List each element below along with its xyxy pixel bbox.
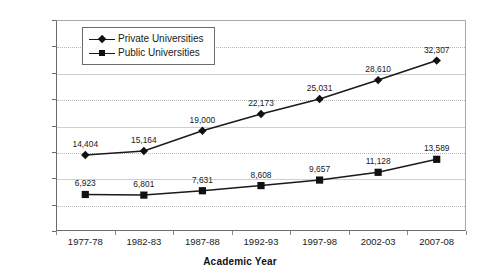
y-tick-mark bbox=[52, 205, 56, 206]
data-point-label: 15,164 bbox=[109, 136, 179, 145]
y-tick-mark bbox=[52, 99, 56, 100]
gridline bbox=[57, 127, 465, 128]
legend-label-private: Private Universities bbox=[115, 33, 204, 45]
x-tick-mark bbox=[173, 231, 174, 235]
x-tick-mark bbox=[407, 231, 408, 235]
y-tick-mark bbox=[52, 126, 56, 127]
x-tick-label: 2007-08 bbox=[397, 236, 477, 248]
y-tick-mark bbox=[52, 152, 56, 153]
data-point-label: 19,000 bbox=[167, 116, 237, 125]
legend-item-private: Private Universities bbox=[89, 32, 204, 46]
data-point-label: 22,173 bbox=[226, 99, 296, 108]
data-point-label: 28,610 bbox=[343, 65, 413, 74]
data-point-label: 25,031 bbox=[285, 84, 355, 93]
x-tick-mark bbox=[466, 231, 467, 235]
y-tick-mark bbox=[52, 73, 56, 74]
x-tick-mark bbox=[56, 231, 57, 235]
x-axis-title: Academic Year bbox=[0, 256, 480, 267]
square-marker-icon bbox=[89, 47, 115, 59]
legend-item-public: Public Universities bbox=[89, 46, 204, 60]
data-point-label: 11,128 bbox=[343, 157, 413, 166]
line-chart: $0$5,000$10,000$15,000$20,000$25,000$30,… bbox=[0, 0, 480, 280]
diamond-marker-icon bbox=[89, 33, 115, 45]
y-tick-mark bbox=[52, 20, 56, 21]
legend: Private Universities Public Universities bbox=[82, 27, 215, 65]
data-point-label: 9,657 bbox=[285, 165, 355, 174]
x-tick-mark bbox=[290, 231, 291, 235]
legend-label-public: Public Universities bbox=[115, 47, 200, 59]
x-tick-mark bbox=[349, 231, 350, 235]
x-tick-mark bbox=[232, 231, 233, 235]
data-point-label: 32,307 bbox=[402, 46, 472, 55]
x-tick-mark bbox=[115, 231, 116, 235]
y-tick-mark bbox=[52, 46, 56, 47]
gridline bbox=[57, 206, 465, 207]
data-point-label: 13,589 bbox=[402, 144, 472, 153]
